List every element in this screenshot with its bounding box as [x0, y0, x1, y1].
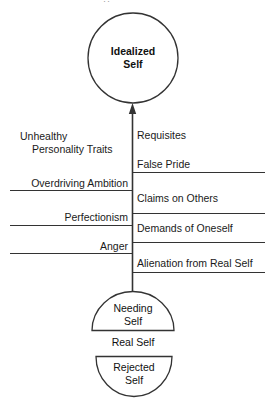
needing-self-label-line2: Self — [124, 315, 142, 327]
idealized-self-diagram: ·· Idealized Self Unhealthy Personality … — [0, 0, 275, 403]
unhealthy-personality-traits-header: Unhealthy Personality Traits — [20, 130, 113, 156]
idealized-self-label: Idealized Self — [93, 45, 173, 70]
left-label-anger: Anger — [10, 240, 128, 253]
unhealthy-header-line2: Personality Traits — [20, 143, 113, 156]
rejected-self-label: Rejected Self — [94, 361, 174, 386]
axis-arrowhead-icon — [129, 103, 136, 114]
real-self-label: Real Self — [93, 336, 173, 349]
needing-self-label-line1: Needing — [113, 302, 152, 314]
right-label-alienation-from-real-self: Alienation from Real Self — [137, 257, 253, 270]
idealized-self-label-line1: Idealized — [111, 45, 155, 57]
rejected-self-label-line2: Self — [125, 374, 143, 386]
left-label-overdriving-ambition: Overdriving Ambition — [10, 177, 128, 190]
idealized-self-label-line2: Self — [123, 58, 142, 70]
left-label-perfectionism: Perfectionism — [10, 211, 128, 224]
right-label-claims-on-others: Claims on Others — [137, 192, 218, 205]
right-label-requisites: Requisites — [137, 129, 186, 142]
right-label-false-pride: False Pride — [137, 158, 190, 171]
right-label-demands-of-oneself: Demands of Oneself — [137, 222, 233, 235]
unhealthy-header-line1: Unhealthy — [20, 130, 67, 142]
rejected-self-label-line1: Rejected — [113, 361, 154, 373]
needing-self-label: Needing Self — [93, 302, 173, 327]
